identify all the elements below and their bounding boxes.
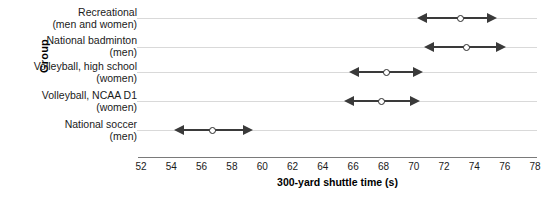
x-tick-label-56: 56 (189, 161, 215, 172)
x-axis-line (138, 157, 537, 158)
category-label-national-badminton: National badminton (men) (0, 35, 137, 58)
x-tick-label-70: 70 (401, 161, 427, 172)
gridline-row-3 (137, 72, 537, 73)
x-tick-label-68: 68 (370, 161, 396, 172)
arrow-left-icon (349, 67, 359, 77)
arrow-left-icon (424, 42, 434, 52)
x-tick-label-72: 72 (431, 161, 457, 172)
arrow-right-icon (487, 13, 497, 23)
gridline-row-4 (137, 101, 537, 102)
data-point-marker (457, 15, 464, 22)
category-label-volleyball-ncaa: Volleyball, NCAA D1 (women) (0, 90, 137, 113)
arrow-right-icon (243, 125, 253, 135)
category-label-volleyball-hs: Volleyball, high school (women) (0, 61, 137, 84)
x-tick-label-58: 58 (219, 161, 245, 172)
arrow-right-icon (413, 67, 423, 77)
x-tick-label-60: 60 (249, 161, 275, 172)
arrow-left-icon (417, 13, 427, 23)
data-point-marker (463, 44, 470, 51)
data-point-marker (383, 69, 390, 76)
x-tick-label-64: 64 (310, 161, 336, 172)
x-tick-label-74: 74 (461, 161, 487, 172)
data-point-marker (209, 127, 216, 134)
arrow-left-icon (344, 96, 354, 106)
arrow-right-icon (410, 96, 420, 106)
x-axis-title: 300-yard shuttle time (s) (138, 176, 537, 188)
x-tick-label-52: 52 (128, 161, 154, 172)
category-label-national-soccer: National soccer (men) (0, 119, 137, 142)
shuttle-time-chart: Group Recreational (men and women) Natio… (0, 0, 550, 207)
category-label-recreational: Recreational (men and women) (0, 7, 137, 30)
x-tick-label-62: 62 (280, 161, 306, 172)
data-point-marker (378, 98, 385, 105)
x-tick-label-78: 78 (522, 161, 548, 172)
x-tick-label-66: 66 (340, 161, 366, 172)
arrow-left-icon (174, 125, 184, 135)
arrow-right-icon (496, 42, 506, 52)
x-tick-label-76: 76 (492, 161, 518, 172)
x-tick-label-54: 54 (158, 161, 184, 172)
